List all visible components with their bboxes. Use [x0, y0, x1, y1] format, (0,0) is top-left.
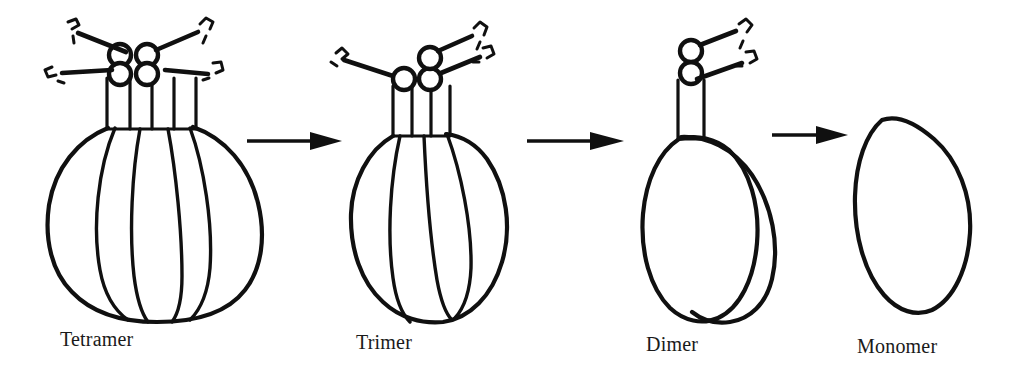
glycan-glyph	[200, 18, 213, 43]
arm	[156, 32, 198, 50]
trimer-diagram	[331, 22, 507, 322]
dimer-terminal-glyphs	[737, 19, 757, 66]
arrow-dimer-to-monomer	[772, 126, 848, 144]
node-circle	[136, 63, 158, 85]
glycan-glyph	[474, 22, 487, 49]
arm	[344, 60, 393, 76]
label-trimer: Trimer	[356, 331, 412, 354]
arm	[700, 31, 736, 45]
label-monomer: Monomer	[857, 335, 937, 358]
node-circle	[419, 68, 441, 90]
arrow-tetramer-to-trimer	[247, 132, 342, 150]
dimer-stalk	[678, 80, 704, 139]
glycan-glyph	[203, 62, 223, 80]
node-circle	[393, 68, 415, 90]
dimer-diagram	[642, 19, 775, 323]
trimer-body	[351, 134, 507, 322]
figure-drawing-canvas	[0, 0, 1019, 383]
glycan-glyph	[739, 19, 752, 48]
glycan-glyph	[331, 48, 348, 66]
monomer-diagram	[855, 118, 970, 312]
tetramer-diagram	[45, 18, 262, 322]
node-circle	[109, 63, 131, 85]
trimer-node-cluster	[393, 47, 441, 90]
label-dimer: Dimer	[646, 333, 698, 356]
arm	[438, 36, 472, 51]
label-tetramer: Tetramer	[60, 328, 134, 351]
arm	[165, 70, 208, 74]
trimer-stalk	[393, 86, 450, 136]
dimer-body	[642, 137, 775, 323]
arrow-trimer-to-dimer	[527, 132, 624, 150]
arm	[441, 57, 480, 73]
arm	[62, 70, 112, 73]
oligomer-dissociation-figure: Tetramer Trimer Dimer Monomer	[0, 0, 1019, 383]
tetramer-body	[48, 127, 262, 322]
